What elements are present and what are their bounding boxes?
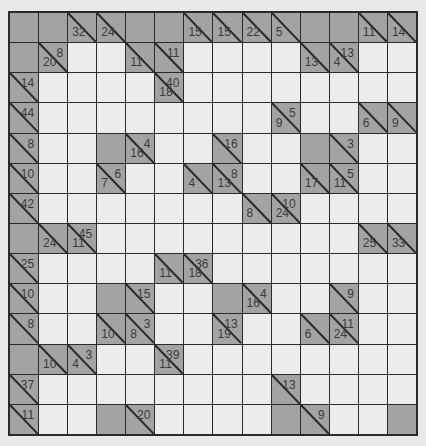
entry-cell[interactable] [126,194,154,223]
entry-cell[interactable] [97,103,125,132]
entry-cell[interactable] [272,254,300,283]
entry-cell[interactable] [213,254,241,283]
entry-cell[interactable] [184,284,212,313]
entry-cell[interactable] [39,314,67,343]
entry-cell[interactable] [184,73,212,102]
entry-cell[interactable] [330,375,358,404]
entry-cell[interactable] [155,284,183,313]
entry-cell[interactable] [301,103,329,132]
entry-cell[interactable] [243,314,271,343]
entry-cell[interactable] [68,134,96,163]
entry-cell[interactable] [184,134,212,163]
entry-cell[interactable] [68,194,96,223]
entry-cell[interactable] [388,43,416,72]
entry-cell[interactable] [301,284,329,313]
entry-cell[interactable] [213,43,241,72]
entry-cell[interactable] [68,405,96,434]
entry-cell[interactable] [155,375,183,404]
entry-cell[interactable] [184,103,212,132]
entry-cell[interactable] [126,345,154,374]
entry-cell[interactable] [155,194,183,223]
entry-cell[interactable] [301,375,329,404]
entry-cell[interactable] [272,224,300,253]
entry-cell[interactable] [97,254,125,283]
entry-cell[interactable] [243,375,271,404]
entry-cell[interactable] [126,375,154,404]
entry-cell[interactable] [39,254,67,283]
entry-cell[interactable] [213,345,241,374]
entry-cell[interactable] [388,73,416,102]
entry-cell[interactable] [213,103,241,132]
entry-cell[interactable] [213,194,241,223]
entry-cell[interactable] [330,345,358,374]
entry-cell[interactable] [359,345,387,374]
entry-cell[interactable] [359,405,387,434]
entry-cell[interactable] [184,375,212,404]
entry-cell[interactable] [243,103,271,132]
entry-cell[interactable] [155,134,183,163]
entry-cell[interactable] [359,375,387,404]
entry-cell[interactable] [39,375,67,404]
entry-cell[interactable] [39,405,67,434]
entry-cell[interactable] [301,194,329,223]
entry-cell[interactable] [359,43,387,72]
entry-cell[interactable] [359,134,387,163]
entry-cell[interactable] [272,134,300,163]
entry-cell[interactable] [68,375,96,404]
entry-cell[interactable] [359,254,387,283]
entry-cell[interactable] [97,224,125,253]
entry-cell[interactable] [155,405,183,434]
entry-cell[interactable] [39,73,67,102]
entry-cell[interactable] [184,194,212,223]
entry-cell[interactable] [388,194,416,223]
entry-cell[interactable] [388,345,416,374]
entry-cell[interactable] [213,73,241,102]
entry-cell[interactable] [155,103,183,132]
entry-cell[interactable] [330,103,358,132]
entry-cell[interactable] [97,375,125,404]
entry-cell[interactable] [68,164,96,193]
entry-cell[interactable] [68,314,96,343]
entry-cell[interactable] [126,103,154,132]
entry-cell[interactable] [68,73,96,102]
entry-cell[interactable] [301,345,329,374]
entry-cell[interactable] [68,284,96,313]
entry-cell[interactable] [243,405,271,434]
entry-cell[interactable] [126,224,154,253]
entry-cell[interactable] [330,405,358,434]
entry-cell[interactable] [388,284,416,313]
entry-cell[interactable] [272,73,300,102]
entry-cell[interactable] [39,134,67,163]
entry-cell[interactable] [243,224,271,253]
entry-cell[interactable] [184,43,212,72]
entry-cell[interactable] [155,224,183,253]
entry-cell[interactable] [330,254,358,283]
entry-cell[interactable] [301,224,329,253]
entry-cell[interactable] [359,73,387,102]
entry-cell[interactable] [155,164,183,193]
entry-cell[interactable] [184,224,212,253]
entry-cell[interactable] [359,284,387,313]
entry-cell[interactable] [184,345,212,374]
entry-cell[interactable] [301,254,329,283]
entry-cell[interactable] [388,314,416,343]
entry-cell[interactable] [301,73,329,102]
entry-cell[interactable] [272,43,300,72]
entry-cell[interactable] [213,405,241,434]
entry-cell[interactable] [68,103,96,132]
entry-cell[interactable] [97,345,125,374]
entry-cell[interactable] [388,134,416,163]
entry-cell[interactable] [388,254,416,283]
entry-cell[interactable] [68,254,96,283]
entry-cell[interactable] [97,194,125,223]
entry-cell[interactable] [39,103,67,132]
entry-cell[interactable] [243,254,271,283]
entry-cell[interactable] [272,345,300,374]
entry-cell[interactable] [243,345,271,374]
entry-cell[interactable] [213,375,241,404]
entry-cell[interactable] [126,164,154,193]
entry-cell[interactable] [359,314,387,343]
entry-cell[interactable] [243,43,271,72]
entry-cell[interactable] [243,73,271,102]
entry-cell[interactable] [330,194,358,223]
